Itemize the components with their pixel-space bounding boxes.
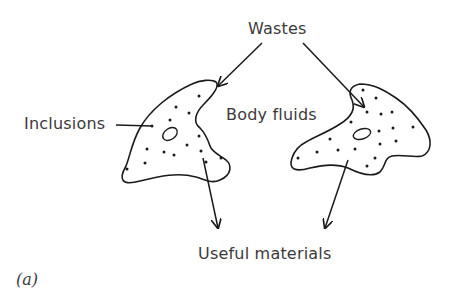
left-cell-vacuole: [160, 125, 179, 143]
left-cell-membrane: [122, 80, 230, 182]
right-cell-vacuole: [352, 126, 372, 141]
wastes-to-right-cell-arrow: [303, 43, 364, 107]
wastes-label: Wastes: [248, 21, 307, 37]
left-cell-to-useful-materials-arrow: [203, 158, 218, 228]
body-fluids-label: Body fluids: [226, 107, 317, 123]
inclusions-leader-line: [116, 125, 152, 126]
left-cell: [122, 80, 230, 182]
inclusions-label: Inclusions: [24, 116, 105, 132]
left-cell-inclusions: [126, 95, 223, 171]
right-cell: [291, 84, 430, 175]
useful-materials-label: Useful materials: [198, 246, 332, 262]
wastes-to-left-cell-arrow: [218, 43, 262, 86]
right-cell-to-useful-materials-arrow: [325, 160, 348, 228]
panel-label: (a): [16, 272, 38, 288]
